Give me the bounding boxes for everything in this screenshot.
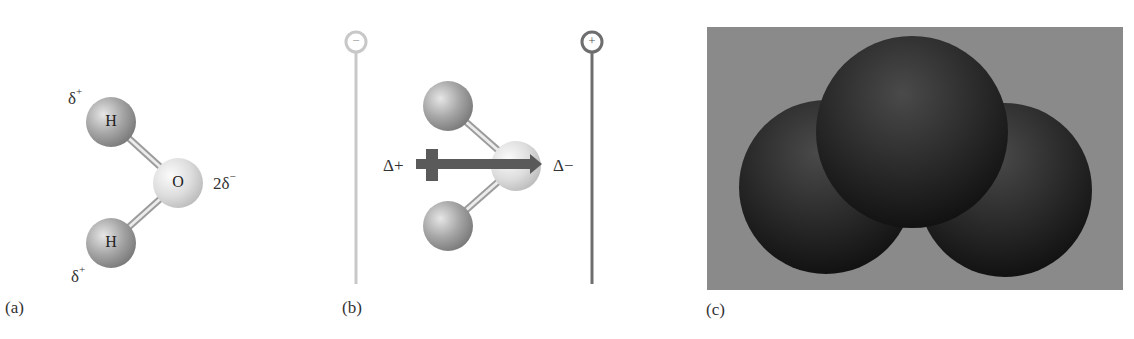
dipole-start-label: Δ+ xyxy=(383,156,404,176)
charge-label-o: 2δ− xyxy=(213,172,236,194)
panel-a-label: (a) xyxy=(5,298,24,318)
panel-b-label: (b) xyxy=(342,298,362,318)
positive-electrode xyxy=(582,32,602,284)
panel-c-space-filling xyxy=(707,27,1123,290)
minus-sign-icon: − xyxy=(350,33,362,49)
panel-c-label: (c) xyxy=(706,300,725,320)
negative-electrode xyxy=(346,32,366,284)
dipole-end-label: Δ− xyxy=(553,156,574,176)
charge-label-h-bottom: δ+ xyxy=(71,265,85,287)
atom-h-top-label: H xyxy=(96,112,126,130)
plus-sign-icon: + xyxy=(586,33,598,49)
atom-o-label: O xyxy=(163,173,193,191)
atom-h-bottom-label: H xyxy=(96,233,126,251)
charge-label-h-top: δ+ xyxy=(68,87,82,109)
